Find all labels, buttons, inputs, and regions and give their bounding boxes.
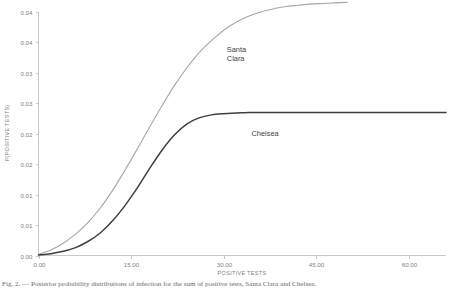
y-axis-title: P(POSITIVE TESTS) <box>4 105 10 162</box>
y-tick-label: 0.02 <box>20 161 33 168</box>
chart-plot-area: 0.000.010.010.020.020.030.030.040.04 0.0… <box>0 0 468 282</box>
series-group <box>39 2 447 255</box>
series-line-chelsea <box>39 112 447 254</box>
x-tick-label: 45.00 <box>309 261 325 268</box>
y-tick-label: 0.01 <box>20 192 33 199</box>
x-tick-label: 0.00 <box>33 261 46 268</box>
y-tick-label: 0.02 <box>20 131 33 138</box>
y-tick-label: 0.04 <box>20 39 33 46</box>
y-tick-labels: 0.000.010.010.020.020.030.030.040.04 <box>20 9 33 260</box>
figure-container: 0.000.010.010.020.020.030.030.040.04 0.0… <box>0 0 468 290</box>
y-tick-label: 0.03 <box>20 100 33 107</box>
series-label-chelsea: Chelsea <box>252 129 280 138</box>
series-annotations: SantaClaraChelsea <box>227 45 280 138</box>
y-tick-label: 0.01 <box>20 222 33 229</box>
x-tick-label: 30.00 <box>217 261 233 268</box>
line-chart: 0.000.010.010.020.020.030.030.040.04 0.0… <box>0 0 468 282</box>
x-axis-title: POSITIVE TESTS <box>218 270 267 276</box>
y-tick-label: 0.04 <box>20 9 33 16</box>
y-tick-label: 0.03 <box>20 70 33 77</box>
y-tick-label: 0.00 <box>20 253 33 260</box>
figure-caption-text: Fig. 2. — Posterior probability distribu… <box>0 281 468 290</box>
x-tick-label: 60.00 <box>402 261 418 268</box>
x-tick-label: 15.00 <box>124 261 140 268</box>
x-tick-labels: 0.0015.0030.0045.0060.00 <box>33 261 417 268</box>
series-line-santa-clara <box>39 2 348 254</box>
series-label-santa-clara: SantaClara <box>227 45 247 64</box>
figure-caption: Fig. 2. — Posterior probability distribu… <box>0 281 468 290</box>
